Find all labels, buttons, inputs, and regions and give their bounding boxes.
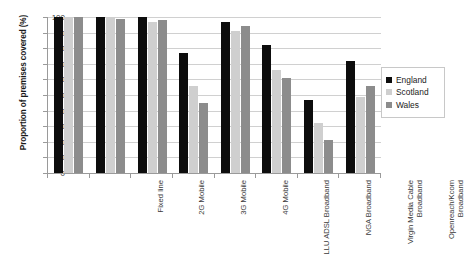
bar-group: [339, 17, 381, 173]
bar-scotland-nga-broadband: [272, 70, 281, 173]
bar-group: [215, 17, 257, 173]
x-axis-label-virgin-media-cable-broadband: Virgin Media Cable Broadband: [406, 180, 424, 264]
bar-wales-3g-mobile: [158, 20, 167, 173]
bar-scotland-llu-adsl-broadband: [231, 31, 240, 173]
bar-group: [256, 17, 298, 173]
x-axis-label-nga-broadband: NGA Broadband: [364, 180, 373, 264]
bar-wales-fixed-line: [74, 17, 83, 173]
legend-swatch-england: [386, 77, 392, 83]
x-axis-label-openreach-kcom-broadband: Openreach/Kcom Broadband: [447, 180, 465, 264]
x-axis-label-3g-mobile: 3G Mobile: [239, 180, 248, 264]
bar-scotland-2g-mobile: [106, 17, 115, 173]
bar-england-openreach-kcom-broadband: [346, 61, 355, 173]
legend-item-wales: Wales: [386, 100, 441, 110]
bar-wales-llu-adsl-broadband: [241, 26, 250, 173]
bar-group: [48, 17, 90, 173]
x-axis-tick-mark: [297, 174, 298, 178]
legend-swatch-wales: [386, 102, 392, 108]
x-axis-tick-mark: [380, 174, 381, 178]
bar-england-2g-mobile: [96, 17, 105, 173]
x-axis-tick-mark: [338, 174, 339, 178]
bar-group: [131, 17, 173, 173]
bar-england-llu-adsl-broadband: [221, 22, 230, 173]
x-axis-label-4g-mobile: 4G Mobile: [281, 180, 290, 264]
legend-label-wales: Wales: [396, 100, 419, 110]
bar-group: [298, 17, 340, 173]
legend-swatch-scotland: [386, 89, 392, 95]
bar-wales-4g-mobile: [199, 103, 208, 173]
bar-scotland-3g-mobile: [148, 22, 157, 173]
bar-england-4g-mobile: [179, 53, 188, 173]
bar-group: [90, 17, 132, 173]
y-axis-title: Proportion of premises covered (%): [19, 0, 28, 168]
x-axis-tick-mark: [130, 174, 131, 178]
bar-england-virgin-media-cable-broadband: [304, 100, 313, 173]
bar-wales-2g-mobile: [116, 19, 125, 173]
x-axis-tick-mark: [47, 174, 48, 178]
legend-item-scotland: Scotland: [386, 87, 441, 97]
x-axis-label-llu-adsl-broadband: LLU ADSL Broadband: [322, 180, 331, 264]
bar-wales-nga-broadband: [282, 78, 291, 173]
bar-scotland-4g-mobile: [189, 86, 198, 173]
x-axis-tick-mark: [255, 174, 256, 178]
x-axis-tick-mark: [172, 174, 173, 178]
legend: EnglandScotlandWales: [381, 67, 445, 118]
x-axis-label-2g-mobile: 2G Mobile: [197, 180, 206, 264]
bar-england-fixed-line: [54, 17, 63, 173]
bar-wales-openreach-kcom-broadband: [366, 86, 375, 173]
legend-item-england: England: [386, 75, 441, 85]
legend-label-england: England: [396, 75, 427, 85]
x-axis-tick-mark: [214, 174, 215, 178]
x-axis-tick-mark: [89, 174, 90, 178]
bar-scotland-virgin-media-cable-broadband: [314, 123, 323, 173]
bar-scotland-openreach-kcom-broadband: [356, 97, 365, 173]
x-axis-label-fixed-line: Fixed line: [156, 180, 165, 264]
plot-area: [47, 17, 381, 174]
bar-group: [173, 17, 215, 173]
bar-wales-virgin-media-cable-broadband: [324, 140, 333, 173]
bar-england-nga-broadband: [262, 45, 271, 173]
bar-scotland-fixed-line: [64, 17, 73, 173]
bar-england-3g-mobile: [138, 17, 147, 173]
legend-label-scotland: Scotland: [396, 87, 429, 97]
